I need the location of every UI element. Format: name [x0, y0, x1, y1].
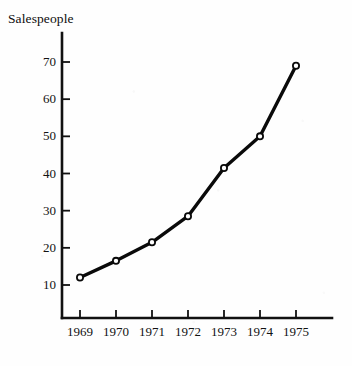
y-axis-tick-label: 70	[43, 55, 56, 69]
data-point-marker	[257, 133, 263, 139]
data-markers-group	[77, 63, 299, 281]
data-point-marker	[221, 165, 227, 171]
y-axis-tick-label: 10	[43, 278, 56, 292]
chart-figure: Salespeople 10203040506070 1969197019711…	[0, 0, 352, 366]
x-axis-tick-label: 1975	[283, 325, 309, 339]
x-axis-tick-label: 1973	[211, 325, 237, 339]
y-axis-tick-label: 60	[43, 92, 56, 106]
y-axis-tick-label: 40	[43, 167, 56, 181]
series-line-salespeople	[80, 66, 296, 278]
data-series-group	[80, 66, 296, 278]
x-axis-tick-label: 1969	[67, 325, 93, 339]
x-axis-tick-label: 1974	[247, 325, 273, 339]
data-point-marker	[149, 239, 155, 245]
y-axis-tick-label: 50	[43, 129, 56, 143]
tick-marks-group	[62, 62, 296, 318]
data-point-marker	[113, 258, 119, 264]
y-axis-tick-label: 20	[43, 241, 56, 255]
data-point-marker	[293, 63, 299, 69]
x-axis-tick-label: 1971	[139, 325, 165, 339]
x-axis-tick-label: 1972	[175, 325, 201, 339]
y-axis-tick-label: 30	[43, 204, 56, 218]
x-axis-tick-label: 1970	[103, 325, 129, 339]
data-point-marker	[77, 274, 83, 280]
data-point-marker	[185, 213, 191, 219]
